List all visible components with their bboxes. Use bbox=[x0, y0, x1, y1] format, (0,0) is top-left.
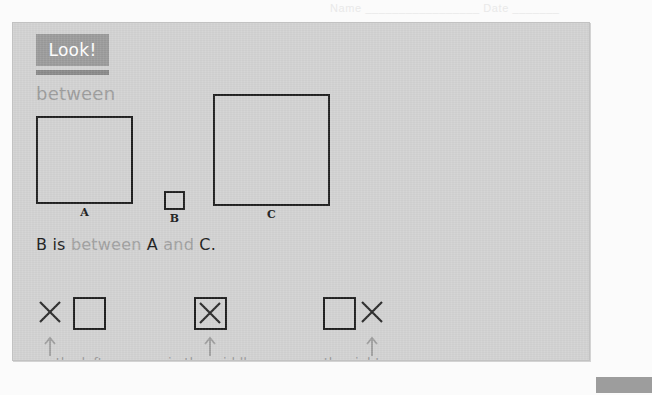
example-square bbox=[73, 297, 106, 330]
sentence-highlight-and: and bbox=[163, 235, 194, 254]
demo-square-label-c: C bbox=[213, 208, 330, 221]
up-arrow-icon bbox=[202, 335, 218, 357]
example-caption-left: on the left bbox=[35, 355, 103, 361]
lesson-panel: Look! between A B C B is between A and C… bbox=[12, 22, 590, 361]
badge-underline-bar bbox=[36, 70, 109, 75]
example-on-the-left: on the left bbox=[35, 291, 147, 361]
x-mark-icon bbox=[37, 299, 63, 325]
sentence-highlight-between: between bbox=[71, 235, 142, 254]
example-square bbox=[323, 297, 356, 330]
example-figure-middle bbox=[168, 291, 280, 337]
x-mark-icon bbox=[197, 300, 223, 326]
ghost-text-top: Name _________________ Date _______ bbox=[330, 2, 560, 14]
lesson-heading: between bbox=[36, 83, 115, 104]
up-arrow-icon bbox=[364, 335, 380, 357]
example-caption-right: on the right bbox=[303, 355, 381, 361]
look-badge: Look! bbox=[36, 34, 109, 66]
look-badge-label: Look! bbox=[48, 40, 96, 60]
demo-square-label-b: B bbox=[164, 212, 185, 225]
x-mark-icon bbox=[359, 299, 385, 325]
example-in-the-middle: in the middle bbox=[168, 291, 280, 361]
example-figure-left bbox=[35, 291, 147, 337]
sentence-part-1: B is bbox=[36, 235, 66, 254]
demo-square-b bbox=[164, 191, 185, 210]
demo-square-c bbox=[213, 94, 330, 206]
corner-marker-block bbox=[596, 377, 652, 393]
sentence-part-3: C. bbox=[199, 235, 216, 254]
demo-square-a bbox=[36, 116, 133, 204]
example-caption-middle: in the middle bbox=[168, 355, 255, 361]
example-on-the-right: on the right bbox=[303, 291, 415, 361]
example-sentence: B is between A and C. bbox=[36, 235, 216, 254]
up-arrow-icon bbox=[42, 335, 58, 357]
example-figure-right bbox=[303, 291, 415, 337]
demo-square-label-a: A bbox=[36, 206, 133, 219]
sentence-part-2: A bbox=[147, 235, 158, 254]
worksheet-page: Name _________________ Date _______ Phon… bbox=[0, 0, 652, 395]
